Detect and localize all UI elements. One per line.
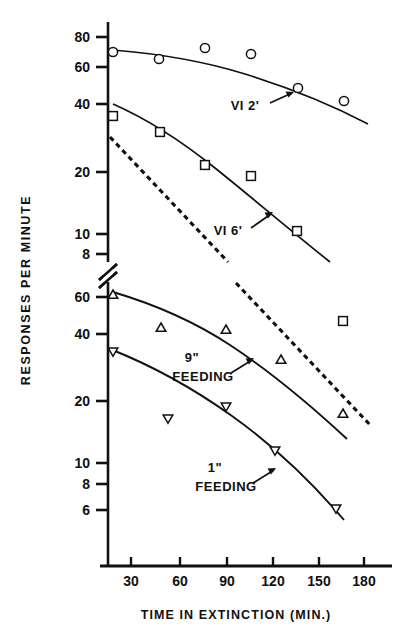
data-point — [200, 43, 209, 52]
data-point — [156, 128, 165, 137]
annotation-vi-6: VI 6' — [214, 212, 273, 238]
annotation-1in-feeding-label-line2: FEEDING — [195, 479, 256, 494]
x-axis-title: TIME IN EXTINCTION (MIN.) — [141, 608, 332, 622]
y-tick-label-upper-40: 40 — [74, 96, 90, 112]
data-point — [201, 161, 210, 170]
annotation-9in-feeding-label-line2: FEEDING — [172, 369, 233, 384]
y-tick-label-upper-10: 10 — [74, 226, 90, 242]
chart-canvas: 80 60 40 20 10 8 60 40 20 10 8 6 30 60 9… — [0, 0, 412, 644]
x-tick-label-90: 90 — [219, 573, 235, 589]
y-tick-label-lower-60: 60 — [74, 289, 90, 305]
data-point — [338, 409, 348, 417]
data-point — [276, 355, 286, 363]
annotation-9in-feeding-label-line1: 9" — [185, 350, 199, 365]
annotation-vi-6-label: VI 6' — [214, 223, 243, 238]
reference-dashed-lower — [236, 283, 372, 427]
series-vi-6-fit-line — [113, 104, 330, 262]
annotation-1in-feeding-label-line1: 1" — [208, 460, 222, 475]
annotation-9in-feeding: 9" FEEDING — [172, 350, 254, 384]
reference-dashed-upper — [110, 137, 228, 262]
y-axis-ticks-lower: 60 40 20 10 8 6 — [74, 289, 108, 518]
y-tick-label-upper-20: 20 — [74, 164, 90, 180]
x-tick-label-60: 60 — [172, 573, 188, 589]
series-reference-dashed — [110, 137, 372, 427]
data-point — [293, 227, 302, 236]
x-tick-label-150: 150 — [307, 573, 331, 589]
data-point — [156, 323, 166, 331]
annotation-vi-2: VI 2' — [231, 92, 294, 114]
data-point — [109, 112, 118, 121]
data-point — [246, 49, 255, 58]
data-point — [339, 317, 348, 326]
data-point — [154, 54, 163, 63]
x-tick-label-30: 30 — [123, 573, 139, 589]
series-vi-6 — [109, 104, 348, 325]
x-axis: 30 60 90 120 150 180 — [100, 557, 392, 589]
data-point — [339, 96, 348, 105]
x-tick-label-180: 180 — [352, 573, 376, 589]
data-point — [293, 83, 302, 92]
y-tick-label-lower-20: 20 — [74, 393, 90, 409]
data-point — [163, 415, 173, 423]
y-tick-label-upper-60: 60 — [74, 59, 90, 75]
data-point — [331, 505, 341, 513]
annotation-1in-feeding: 1" FEEDING — [195, 460, 276, 494]
y-axis-ticks-upper: 80 60 40 20 10 8 — [74, 29, 108, 262]
annotation-vi-2-label: VI 2' — [231, 98, 260, 113]
data-point — [108, 47, 117, 56]
y-axis-title: RESPONSES PER MINUTE — [19, 195, 33, 385]
y-tick-label-upper-80: 80 — [74, 29, 90, 45]
y-tick-label-upper-8: 8 — [82, 246, 90, 262]
y-tick-label-lower-10: 10 — [74, 455, 90, 471]
data-point — [108, 290, 118, 298]
x-tick-label-120: 120 — [261, 573, 285, 589]
y-tick-label-lower-6: 6 — [82, 502, 90, 518]
y-tick-label-lower-8: 8 — [82, 476, 90, 492]
data-point — [221, 325, 231, 333]
data-point — [247, 172, 256, 181]
y-tick-label-lower-40: 40 — [74, 326, 90, 342]
